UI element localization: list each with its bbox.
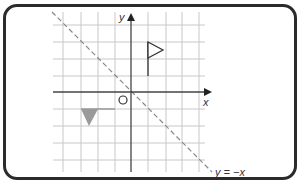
y-axis-arrow-icon [127, 13, 135, 21]
y-axis-label: y [118, 11, 126, 23]
x-axis-label: x [202, 96, 209, 108]
x-axis-arrow-icon [204, 88, 212, 96]
mirror-line-label: y = −x [214, 166, 245, 178]
coordinate-grid: y x y = −x [0, 0, 300, 183]
origin-marker [119, 96, 127, 104]
